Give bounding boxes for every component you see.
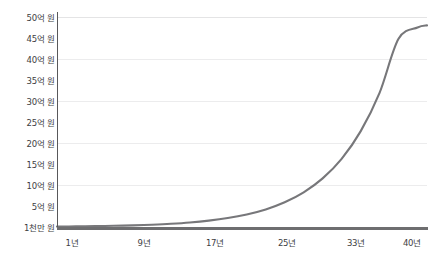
y-tick-label: 20억 원 [1,137,55,149]
series-line-compound-growth [57,12,427,229]
y-tick-label: 15억 원 [1,158,55,170]
y-tick-label: 10억 원 [1,179,55,191]
y-tick-label: 35억 원 [1,74,55,86]
plot-area [57,12,427,229]
x-tick-label: 40년 [403,236,421,248]
y-tick-label: 5억 원 [1,200,55,212]
y-axis-tick-labels: 50억 원 45억 원 40억 원 35억 원 30억 원 25억 원 20억 … [0,0,55,268]
y-axis-line [57,12,58,230]
x-tick-label: 33년 [347,236,365,248]
y-tick-label: 45억 원 [1,32,55,44]
y-tick-label: 25억 원 [1,116,55,128]
x-tick-label: 1년 [65,236,78,248]
x-tick-label: 17년 [206,236,224,248]
y-tick-label: 1천만 원 [1,221,55,233]
chart-container: 50억 원 45억 원 40억 원 35억 원 30억 원 25억 원 20억 … [0,0,434,268]
x-axis-tick-labels: 1년 9년 17년 25년 33년 40년 [0,236,434,252]
y-tick-label: 40억 원 [1,53,55,65]
y-tick-label: 30억 원 [1,95,55,107]
x-axis-line [57,227,428,230]
x-tick-label: 25년 [278,236,296,248]
y-tick-label: 50억 원 [1,11,55,23]
x-tick-label: 9년 [137,236,150,248]
